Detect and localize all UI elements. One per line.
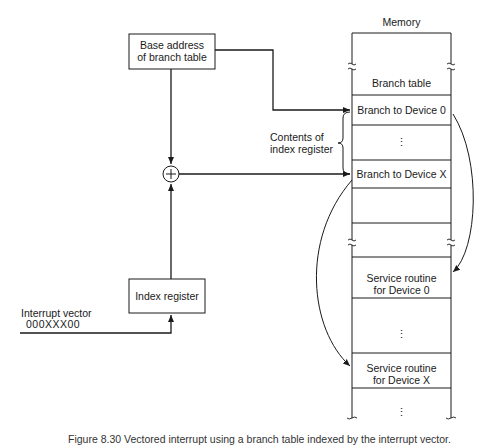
cell-ellipsis-2: ⋮ bbox=[352, 328, 451, 340]
cell-service-x-line1: Service routine bbox=[352, 362, 451, 374]
memory-title: Memory bbox=[352, 16, 451, 28]
interrupt-vector-value: 000XXX00 bbox=[26, 318, 80, 330]
cell-service-0-line1: Service routine bbox=[352, 272, 451, 284]
cell-branch-device-0: Branch to Device 0 bbox=[352, 104, 451, 116]
figure-caption: Figure 8.30 Vectored interrupt using a b… bbox=[68, 433, 451, 445]
contents-label-2: index register bbox=[270, 143, 333, 155]
brace bbox=[338, 112, 350, 174]
cell-ellipsis-3: ⋮ bbox=[352, 406, 451, 418]
cell-ellipsis-1: ⋮ bbox=[352, 136, 451, 148]
index-register-label: Index register bbox=[129, 290, 205, 302]
cell-branch-device-x: Branch to Device X bbox=[352, 168, 451, 180]
cell-service-x-line2: for Device X bbox=[352, 374, 451, 386]
cell-service-0-line2: for Device 0 bbox=[352, 284, 451, 296]
contents-label-1: Contents of bbox=[270, 131, 324, 143]
base-address-label-2: of branch table bbox=[129, 51, 215, 63]
cell-branch-table: Branch table bbox=[352, 77, 451, 89]
base-address-label-1: Base address bbox=[129, 39, 215, 51]
